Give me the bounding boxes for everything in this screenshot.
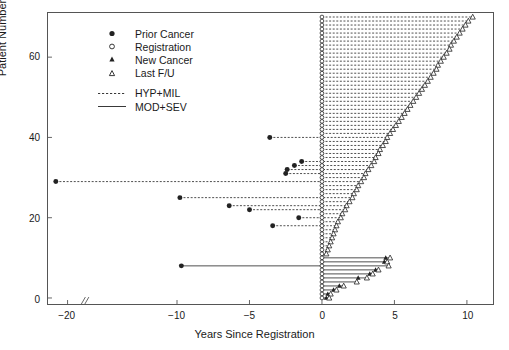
patient-row bbox=[320, 46, 452, 51]
registration-marker bbox=[320, 280, 324, 284]
registration-marker bbox=[320, 59, 324, 63]
legend-symbol bbox=[95, 41, 129, 52]
registration-marker bbox=[320, 284, 324, 288]
filled-circle-icon bbox=[97, 28, 127, 39]
legend-label: Registration bbox=[129, 41, 191, 53]
registration-marker bbox=[320, 95, 324, 99]
y-tick-label: 60 bbox=[14, 51, 40, 62]
patient-row bbox=[320, 243, 332, 248]
patient-row bbox=[227, 203, 349, 208]
y-tick-label: 40 bbox=[14, 132, 40, 143]
patient-row bbox=[53, 179, 363, 184]
x-tick-label: −10 bbox=[168, 310, 185, 321]
registration-marker bbox=[320, 232, 324, 236]
patient-row bbox=[320, 38, 456, 43]
patient-row bbox=[320, 295, 332, 300]
registration-marker bbox=[320, 47, 324, 51]
patient-row bbox=[320, 14, 475, 19]
solid-line-icon bbox=[97, 101, 127, 112]
registration-marker bbox=[320, 264, 324, 268]
patient-row bbox=[320, 70, 436, 75]
registration-marker bbox=[320, 296, 324, 300]
registration-marker bbox=[320, 67, 324, 71]
legend-label: MOD+SEV bbox=[129, 101, 187, 113]
registration-marker bbox=[320, 260, 324, 264]
patient-row bbox=[320, 235, 335, 240]
registration-marker bbox=[320, 148, 324, 152]
registration-marker bbox=[320, 200, 324, 204]
patient-row bbox=[320, 50, 449, 55]
patient-row bbox=[320, 175, 367, 180]
patient-row bbox=[285, 167, 371, 172]
patient-row bbox=[320, 34, 459, 39]
x-tick-label: 0 bbox=[319, 310, 325, 321]
patient-row bbox=[320, 139, 388, 144]
registration-marker bbox=[320, 268, 324, 272]
patient-row bbox=[267, 135, 389, 140]
registration-marker bbox=[320, 79, 324, 83]
patient-row bbox=[179, 263, 391, 268]
legend-item-new-cancer: New Cancer bbox=[95, 53, 194, 66]
patient-row bbox=[299, 159, 377, 164]
patient-row bbox=[320, 131, 393, 136]
registration-marker bbox=[320, 180, 324, 184]
registration-marker bbox=[320, 111, 324, 115]
legend-symbol bbox=[95, 54, 129, 65]
patient-row bbox=[177, 195, 355, 200]
registration-marker bbox=[320, 224, 324, 228]
x-tick-label: −20 bbox=[58, 310, 75, 321]
patient-row bbox=[320, 90, 422, 95]
patient-row bbox=[320, 275, 369, 280]
legend-item-prior-cancer: Prior Cancer bbox=[95, 27, 194, 40]
patient-row bbox=[320, 115, 404, 120]
legend-label: HYP+MIL bbox=[129, 87, 180, 99]
prior-cancer-marker bbox=[227, 203, 232, 208]
registration-marker bbox=[320, 119, 324, 123]
legend-item-mod-sev: MOD+SEV bbox=[95, 100, 194, 113]
registration-marker bbox=[320, 220, 324, 224]
registration-marker bbox=[320, 27, 324, 31]
legend-item-last-f-u: Last F/U bbox=[95, 67, 194, 80]
registration-marker bbox=[320, 228, 324, 232]
registration-marker bbox=[320, 75, 324, 79]
y-tick-label: 20 bbox=[14, 213, 40, 224]
patient-row bbox=[320, 151, 381, 156]
patient-row bbox=[320, 127, 396, 132]
registration-marker bbox=[320, 83, 324, 87]
legend-symbol bbox=[95, 28, 129, 39]
registration-marker bbox=[320, 35, 324, 39]
registration-marker bbox=[320, 216, 324, 220]
patient-row bbox=[320, 155, 378, 160]
patient-row bbox=[270, 223, 339, 228]
y-tick-label: 0 bbox=[14, 293, 40, 304]
registration-marker bbox=[320, 87, 324, 91]
registration-marker bbox=[320, 236, 324, 240]
legend-symbol bbox=[95, 101, 129, 112]
patient-row bbox=[320, 82, 427, 87]
registration-marker bbox=[320, 248, 324, 252]
x-tick-label: 5 bbox=[392, 310, 398, 321]
x-tick-label: −5 bbox=[244, 310, 255, 321]
prior-cancer-marker bbox=[179, 263, 184, 268]
registration-marker bbox=[320, 172, 324, 176]
patient-row bbox=[320, 259, 390, 264]
registration-marker bbox=[320, 208, 324, 212]
patient-row bbox=[320, 99, 416, 104]
registration-marker bbox=[320, 23, 324, 27]
registration-marker bbox=[320, 160, 324, 164]
registration-marker bbox=[320, 136, 324, 140]
patient-row bbox=[292, 163, 374, 168]
axis-break-slash bbox=[81, 297, 86, 304]
registration-marker bbox=[320, 276, 324, 280]
prior-cancer-marker bbox=[177, 195, 182, 200]
prior-cancer-marker bbox=[53, 179, 58, 184]
registration-marker bbox=[320, 115, 324, 119]
registration-marker bbox=[320, 240, 324, 244]
registration-marker bbox=[320, 31, 324, 35]
patient-row bbox=[320, 86, 424, 91]
legend-label: Last F/U bbox=[129, 67, 175, 79]
registration-marker bbox=[320, 204, 324, 208]
prior-cancer-marker bbox=[270, 223, 275, 228]
patient-row bbox=[320, 227, 338, 232]
legend-label: New Cancer bbox=[129, 54, 193, 66]
